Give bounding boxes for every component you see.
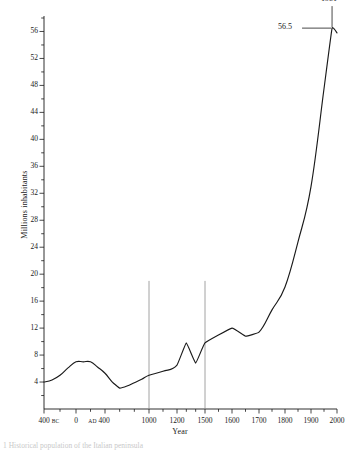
- axes-group: [40, 16, 338, 414]
- reference-lines-group: [149, 281, 205, 409]
- peak-value-annotation: 56.5: [278, 22, 292, 31]
- y-tick-label: 56: [14, 26, 38, 35]
- y-tick-label: 32: [14, 188, 38, 197]
- figure-caption: 1 Historical population of the Italian p…: [3, 440, 347, 451]
- y-tick-label: 44: [14, 107, 38, 116]
- x-tick-label: 2000: [297, 416, 350, 425]
- y-tick-label: 16: [14, 296, 38, 305]
- figure-container: Millions inhabitants Year 48121620242832…: [0, 0, 350, 451]
- y-tick-label: 28: [14, 215, 38, 224]
- y-tick-label: 20: [14, 269, 38, 278]
- y-tick-label: 48: [14, 80, 38, 89]
- x-axis-title: Year: [150, 427, 210, 436]
- y-tick-label: 40: [14, 134, 38, 143]
- population-line-chart: [0, 0, 350, 451]
- y-tick-label: 12: [14, 323, 38, 332]
- y-tick-label: 24: [14, 242, 38, 251]
- y-tick-label: 52: [14, 53, 38, 62]
- y-tick-label: 4: [14, 377, 38, 386]
- y-tick-label: 36: [14, 161, 38, 170]
- data-line-group: [44, 28, 337, 388]
- peak-year-annotation: 1981: [321, 0, 337, 3]
- y-tick-label: 8: [14, 350, 38, 359]
- annotation-lines-group: [302, 6, 332, 28]
